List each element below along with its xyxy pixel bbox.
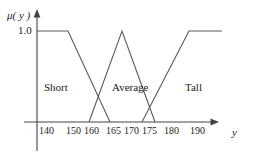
x-tick-label-175: 175 (142, 126, 157, 136)
y-axis-arrowhead (34, 9, 41, 18)
x-tick-label-170: 170 (124, 126, 139, 136)
x-axis-arrowhead (211, 119, 220, 126)
y-tick-label-1.0: 1.0 (18, 25, 32, 36)
series-label-tall: Tall (185, 82, 202, 93)
x-tick-label-140: 140 (39, 126, 54, 136)
series-tall-curve (142, 31, 222, 122)
series-label-short: Short (44, 82, 68, 93)
x-tick-label-160: 160 (84, 126, 99, 136)
fuzzy-membership-chart: μ( y ) 1.0 140 150 160 165 170 175 180 1… (0, 0, 254, 159)
series-short-curve (37, 31, 110, 122)
y-axis-title: μ( y ) (7, 10, 30, 21)
x-axis-title: y (232, 127, 237, 138)
x-tick-label-180: 180 (164, 126, 179, 136)
series-label-average: Average (112, 82, 148, 93)
x-tick-label-190: 190 (190, 126, 205, 136)
x-tick-label-150: 150 (66, 126, 81, 136)
x-tick-label-165: 165 (106, 126, 121, 136)
series-average-curve (89, 31, 155, 122)
